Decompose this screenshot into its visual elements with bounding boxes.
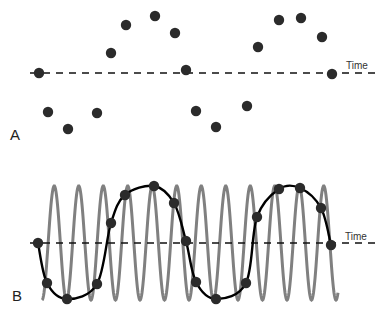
sample-point [274,15,284,25]
sample-point [62,294,72,304]
sample-point [274,184,284,194]
sample-point [252,212,262,222]
sample-point [316,203,326,213]
sample-point [63,124,73,134]
sample-point [211,122,221,132]
sample-point [327,69,337,79]
sample-point [43,107,53,117]
time-axis-label-a: Time [346,60,368,71]
figure-canvas [0,0,391,316]
sample-point [211,294,221,304]
sample-point [191,106,201,116]
sample-point [33,238,43,248]
sample-point [241,278,251,288]
sample-point [169,198,179,208]
panel-label-b: B [12,287,22,304]
sample-point [181,65,191,75]
sample-point [120,190,130,200]
sample-point [34,68,44,78]
time-axis-label-b: Time [345,231,367,242]
sample-point [295,183,305,193]
sample-point [92,279,102,289]
sample-point [121,20,131,30]
sample-point [296,13,306,23]
sample-point [181,236,191,246]
sample-point [317,32,327,42]
sample-point [149,181,159,191]
panel-label-a: A [10,126,20,143]
sample-point [106,218,116,228]
sample-point [106,48,116,58]
sample-point [326,240,336,250]
aliasing-figure: A Time B Time [0,0,391,316]
sample-point [150,11,160,21]
sample-point [170,28,180,38]
sample-point [253,42,263,52]
sample-point [242,101,252,111]
sample-point [42,278,52,288]
panel-b-aliased-waveform [30,181,380,304]
panel-a-sampled-points [30,11,380,134]
sample-point [191,277,201,287]
sample-point [92,108,102,118]
